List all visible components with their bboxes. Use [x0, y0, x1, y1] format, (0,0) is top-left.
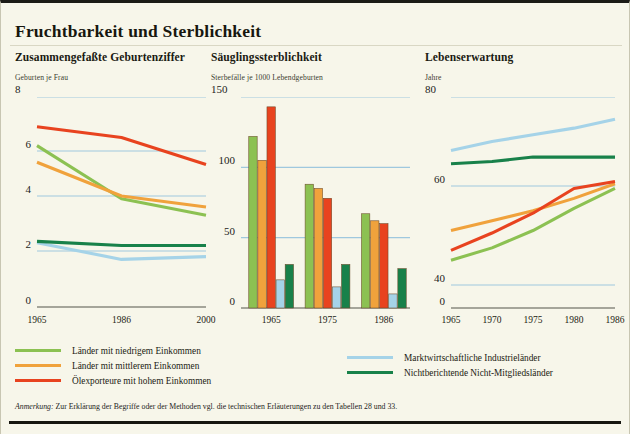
chart-title-life-expectancy: Lebenserwartung [425, 51, 621, 63]
chart-ylabel-life-expectancy: Jahre [425, 73, 621, 82]
legend-label-low_income: Länder mit niedrigem Einkommen [72, 346, 201, 356]
svg-text:2: 2 [26, 238, 32, 250]
x-tick-label: 1986 [374, 315, 393, 325]
footnote: Anmerkung: Zur Erklärung der Begriffe od… [15, 402, 397, 411]
legend-swatch-market_industrial [347, 356, 393, 360]
legend-item-non_reporting: Nichtberichtende Nicht-Mitgliedsländer [347, 365, 553, 380]
svg-text:50: 50 [224, 225, 236, 237]
page-title: Fruchtbarkeit und Sterblichkeit [15, 21, 261, 42]
svg-text:0: 0 [26, 294, 32, 306]
plot-area-fertility: 0246 [15, 97, 210, 312]
chart-panel-life-expectancy: Lebenserwartung Jahre 80 04060 196519701… [425, 51, 621, 331]
x-tick-label: 1970 [483, 315, 502, 325]
legend-swatch-low_income [15, 349, 61, 353]
life-expectancy-line-svg: 04060 [425, 97, 621, 312]
plot-area-infant-mortality: 050100 [211, 97, 416, 312]
chart-axismax-fertility: 8 [15, 83, 210, 95]
svg-text:60: 60 [434, 173, 446, 185]
x-tick-label: 1965 [442, 315, 461, 325]
legend-swatch-non_reporting [347, 371, 393, 375]
chart-axismax-life-expectancy: 80 [425, 83, 621, 95]
plot-area-life-expectancy: 04060 [425, 97, 621, 312]
x-axis-labels-infant-mortality: 196519751986 [211, 315, 416, 331]
chart-ylabel-fertility: Geburten je Frau [15, 73, 210, 82]
legend-column-right: Marktwirtschaftliche IndustrieländerNich… [347, 350, 553, 380]
legend-label-market_industrial: Marktwirtschaftliche Industrieländer [404, 353, 541, 363]
footnote-text: Zur Erklärung der Begriffe oder der Meth… [54, 402, 398, 411]
legend-label-non_reporting: Nichtberichtende Nicht-Mitgliedsländer [404, 368, 553, 378]
x-tick-label: 1986 [606, 315, 625, 325]
chart-title-fertility: Zusammengefaßte Geburtenziffer [15, 51, 210, 63]
title-divider [10, 45, 622, 46]
legend-swatch-oil_high_income [15, 379, 61, 383]
chart-axismax-infant-mortality: 150 [211, 83, 416, 95]
footnote-label: Anmerkung: [15, 402, 54, 411]
x-tick-label: 1975 [524, 315, 543, 325]
x-axis-labels-life-expectancy: 19651970197519801986 [425, 315, 621, 331]
chart-ylabel-infant-mortality: Sterbefälle je 1000 Lebendgeburten [211, 73, 416, 82]
legend-label-oil_high_income: Ölexporteure mit hohem Einkommen [72, 376, 211, 386]
svg-text:4: 4 [26, 183, 32, 195]
svg-text:0: 0 [440, 295, 446, 307]
figure-page: Fruchtbarkeit und Sterblichkeit Zusammen… [0, 0, 630, 434]
legend-column-left: Länder mit niedrigem EinkommenLänder mit… [15, 343, 211, 388]
infant-mortality-bar-svg: 050100 [211, 97, 416, 312]
x-tick-label: 1975 [318, 315, 337, 325]
legend-item-market_industrial: Marktwirtschaftliche Industrieländer [347, 350, 553, 365]
bottom-rule [9, 421, 621, 424]
svg-text:40: 40 [434, 272, 446, 284]
svg-text:100: 100 [219, 154, 236, 166]
x-tick-label: 1965 [262, 315, 281, 325]
x-tick-label: 1986 [112, 315, 131, 325]
fertility-line-svg: 0246 [15, 97, 210, 312]
legend-swatch-middle_income [15, 364, 61, 368]
chart-panel-fertility: Zusammengefaßte Geburtenziffer Geburten … [15, 51, 210, 331]
legend-item-low_income: Länder mit niedrigem Einkommen [15, 343, 211, 358]
x-tick-label: 1965 [28, 315, 47, 325]
x-axis-labels-fertility: 196519862000 [15, 315, 210, 331]
chart-panel-infant-mortality: Säuglingssterblichkeit Sterbefälle je 10… [211, 51, 416, 331]
x-tick-label: 1980 [565, 315, 584, 325]
legend-label-middle_income: Länder mit mittlerem Einkommen [72, 361, 199, 371]
legend-item-middle_income: Länder mit mittlerem Einkommen [15, 358, 211, 373]
svg-text:0: 0 [230, 295, 236, 307]
legend-item-oil_high_income: Ölexporteure mit hohem Einkommen [15, 373, 211, 388]
svg-text:6: 6 [26, 138, 32, 150]
chart-title-infant-mortality: Säuglingssterblichkeit [211, 51, 416, 63]
